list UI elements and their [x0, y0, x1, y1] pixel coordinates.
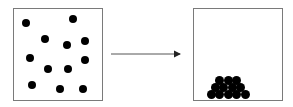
particle-dot: [241, 90, 250, 99]
particle-dot: [215, 90, 224, 99]
particle-dot: [232, 90, 241, 99]
